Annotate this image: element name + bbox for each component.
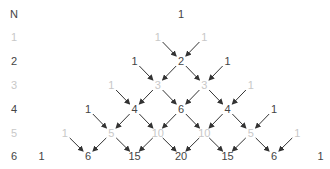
arrow-icon [186,42,200,56]
triangle-value: 1 [108,80,114,91]
triangle-value: 5 [108,128,114,139]
arrow-icon [279,138,292,151]
arrow-icon [209,114,223,128]
arrow-icon [116,90,130,104]
triangle-value: 15 [128,151,140,162]
triangle-value: 1 [201,32,207,43]
triangle-value: 3 [201,80,207,91]
triangle-value: 10 [198,128,210,139]
triangle-value: 1 [85,104,91,115]
triangle-value: 3 [155,80,161,91]
triangle-value: 5 [248,128,254,139]
triangle-value: 15 [221,151,233,162]
triangle-value: 20 [175,151,187,162]
arrows-layer [0,0,330,169]
triangle-value: 2 [178,56,184,67]
arrow-icon [186,90,200,104]
triangle-value: 1 [317,151,323,162]
row-label: 1 [11,32,17,43]
arrow-icon [93,114,107,128]
arrow-icon [163,42,177,56]
arrow-icon [70,138,83,151]
row-label: 4 [11,104,17,115]
triangle-value: 4 [224,104,230,115]
arrow-icon [256,114,270,128]
arrow-icon [232,138,245,151]
arrow-icon [139,138,152,151]
triangle-value: 6 [178,104,184,115]
arrow-icon [116,114,130,128]
triangle-value: 6 [271,151,277,162]
arrow-icon [186,66,200,80]
row-label: 2 [11,56,17,67]
arrow-icon [163,66,177,80]
row-label: N [10,9,18,20]
arrow-icon [256,138,269,151]
triangle-value: 1 [224,56,230,67]
arrow-icon [209,66,223,80]
row-label: 6 [11,151,17,162]
arrow-icon [232,114,246,128]
triangle-value: 4 [131,104,137,115]
triangle-value: 1 [271,104,277,115]
row-label: 5 [11,128,17,139]
triangle-value: 1 [294,128,300,139]
arrow-icon [209,90,223,104]
triangle-value: 1 [62,128,68,139]
arrow-icon [163,90,177,104]
triangle-value: 1 [155,32,161,43]
triangle-value: 1 [178,9,184,20]
triangle-value: 1 [131,56,137,67]
arrow-icon [163,114,177,128]
arrow-icon [186,138,199,151]
triangle-value: 1 [38,151,44,162]
arrow-icon [139,90,153,104]
triangle-value: 1 [248,80,254,91]
arrow-icon [93,138,106,151]
triangle-value: 10 [152,128,164,139]
arrow-icon [232,90,246,104]
row-label: 3 [11,80,17,91]
arrow-icon [139,66,153,80]
triangle-value: 6 [85,151,91,162]
